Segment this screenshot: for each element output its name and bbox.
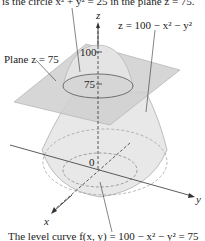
top-caption: is the circle x² + y² = 25 in the plane … bbox=[2, 0, 195, 7]
paraboloid-diagram bbox=[0, 0, 205, 241]
bottom-caption: The level curve f(x, y) = 100 − x² − y² … bbox=[8, 231, 199, 241]
tick-100: 100 bbox=[80, 47, 97, 58]
tick-75: 75 bbox=[84, 79, 95, 90]
origin-label: 0 bbox=[89, 157, 95, 168]
y-axis-label: y bbox=[196, 194, 201, 205]
surface-label: z = 100 − x² − y² bbox=[118, 20, 192, 31]
plane-label: Plane z = 75 bbox=[4, 54, 59, 65]
figure: is the circle x² + y² = 25 in the plane … bbox=[0, 0, 205, 241]
x-axis-label: x bbox=[44, 216, 49, 227]
z-axis-label: z bbox=[96, 10, 100, 21]
